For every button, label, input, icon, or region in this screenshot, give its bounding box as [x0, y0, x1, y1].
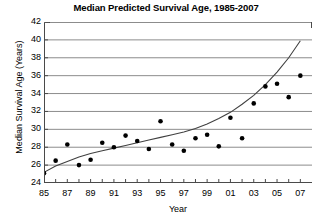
- plot-area: [44, 22, 312, 183]
- data-point: [205, 132, 210, 137]
- data-point: [123, 133, 128, 138]
- x-tick-label: 99: [195, 188, 219, 198]
- x-axis-label: Year: [44, 204, 312, 214]
- x-tick-label: 85: [32, 188, 56, 198]
- data-point: [240, 136, 245, 141]
- data-point: [216, 144, 221, 149]
- data-point: [228, 115, 233, 120]
- plot-canvas: [44, 22, 312, 183]
- data-point: [65, 142, 70, 147]
- data-points: [44, 73, 303, 175]
- data-point: [112, 145, 117, 150]
- axis-frame: [44, 22, 312, 183]
- x-tick-label: 95: [149, 188, 173, 198]
- y-tick-label: 38: [0, 53, 41, 62]
- y-tick-label: 34: [0, 89, 41, 98]
- x-tick-label: 89: [79, 188, 103, 198]
- y-tick-label: 36: [0, 71, 41, 80]
- x-tick-label: 05: [265, 188, 289, 198]
- x-tick-label: 93: [125, 188, 149, 198]
- data-point: [53, 158, 58, 163]
- data-point: [77, 163, 82, 168]
- trend-line: [44, 41, 300, 172]
- x-tick-label: 03: [242, 188, 266, 198]
- data-point: [298, 73, 303, 78]
- y-tick-label: 40: [0, 35, 41, 44]
- gridlines: [44, 22, 312, 165]
- x-tick-label: 87: [55, 188, 79, 198]
- data-point: [263, 84, 268, 89]
- x-tick-label: 07: [288, 188, 312, 198]
- data-point: [100, 140, 105, 145]
- chart-title: Median Predicted Survival Age, 1985-2007: [0, 2, 332, 14]
- chart-figure: Median Predicted Survival Age, 1985-2007…: [0, 0, 332, 223]
- x-tick-label: 91: [102, 188, 126, 198]
- data-point: [147, 147, 152, 152]
- data-point: [170, 142, 175, 147]
- y-tick-label: 30: [0, 124, 41, 133]
- data-point: [193, 136, 198, 141]
- x-tick-label: 01: [218, 188, 242, 198]
- y-tick-label: 24: [0, 178, 41, 187]
- y-tick-label: 32: [0, 106, 41, 115]
- data-point: [135, 139, 140, 144]
- y-tick-label: 26: [0, 160, 41, 169]
- data-point: [251, 101, 256, 106]
- trend-curve: [44, 41, 300, 172]
- data-point: [275, 81, 280, 86]
- data-point: [286, 95, 291, 100]
- x-tick-label: 97: [172, 188, 196, 198]
- data-point: [182, 149, 187, 154]
- data-point: [88, 157, 93, 162]
- data-point: [158, 119, 163, 124]
- y-tick-label: 42: [0, 17, 41, 26]
- y-tick-label: 28: [0, 142, 41, 151]
